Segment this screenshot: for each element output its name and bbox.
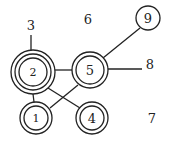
graph-svg: 2 5 9 1 4 3 6 8 7 <box>0 0 170 148</box>
label-6: 6 <box>84 12 92 27</box>
label-7: 7 <box>148 111 156 126</box>
node-9-label: 9 <box>144 11 152 26</box>
label-8: 8 <box>146 57 154 72</box>
edge-5-9 <box>103 28 140 58</box>
node-2-label: 2 <box>30 66 37 79</box>
node-1-label: 1 <box>33 112 40 125</box>
node-5-label: 5 <box>86 63 94 78</box>
node-4-label: 4 <box>88 111 96 126</box>
label-3: 3 <box>27 18 35 33</box>
edge-2-1 <box>33 94 34 102</box>
graph-diagram: 2 5 9 1 4 3 6 8 7 <box>0 0 170 148</box>
